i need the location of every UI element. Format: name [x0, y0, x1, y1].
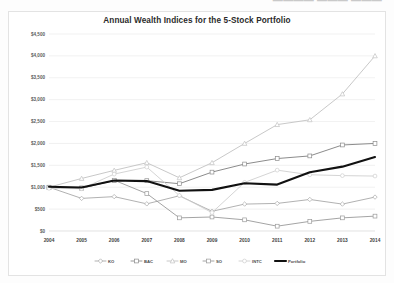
data-point-marker	[308, 197, 312, 201]
legend-label: BAC	[144, 259, 153, 264]
legend-item-mo[interactable]: MO	[167, 259, 187, 264]
data-point-marker	[112, 194, 116, 198]
data-point-marker	[145, 202, 149, 206]
legend-item-portfolio[interactable]: Portfolio	[275, 259, 306, 264]
data-point-marker	[79, 196, 83, 200]
chart-legend: KOBACMOSOINTCPortfolio	[95, 259, 306, 264]
data-point-marker	[341, 216, 345, 220]
data-point-marker	[145, 160, 150, 164]
data-point-marker	[210, 211, 214, 215]
x-tick-label: 2004	[44, 238, 55, 243]
data-point-marker	[145, 192, 149, 196]
x-tick-label: 2006	[109, 238, 120, 243]
data-point-marker	[373, 214, 377, 218]
data-point-marker	[373, 142, 377, 146]
data-point-marker	[308, 219, 312, 223]
data-point-marker	[178, 182, 182, 186]
data-point-marker	[98, 259, 102, 263]
data-point-marker	[210, 160, 215, 164]
legend-item-intc[interactable]: INTC	[239, 259, 262, 264]
legend-item-ko[interactable]: KO	[95, 259, 115, 264]
data-series-group	[47, 54, 378, 228]
data-point-marker	[145, 165, 149, 169]
data-point-marker	[373, 174, 377, 178]
series-so	[47, 178, 377, 228]
y-tick-label: $500	[35, 207, 46, 212]
legend-label: SO	[216, 259, 223, 264]
x-tick-label: 2010	[239, 238, 250, 243]
data-point-marker	[135, 259, 139, 263]
chart-container: Annual Wealth Indices for the 5-Stock Po…	[8, 11, 386, 276]
x-tick-label: 2009	[207, 238, 218, 243]
y-tick-label: $4,000	[31, 53, 45, 58]
y-axis-tick-labels: $0$500$1,000$1,500$2,000$2,500$3,000$3,5…	[31, 32, 45, 234]
x-tick-label: 2005	[76, 238, 87, 243]
data-point-marker	[341, 174, 345, 178]
data-point-marker	[177, 176, 182, 180]
x-tick-label: 2013	[337, 238, 348, 243]
y-tick-label: $0	[40, 229, 46, 234]
data-point-marker	[178, 194, 182, 198]
data-point-marker	[112, 172, 116, 176]
page-root: ———— ——— ——— Annual Wealth Indices for t…	[0, 0, 394, 283]
data-point-marker	[243, 259, 247, 263]
y-tick-label: $1,000	[31, 185, 45, 190]
document-header-strip: ———— ——— ———	[0, 0, 394, 11]
data-point-marker	[275, 157, 279, 161]
data-point-marker	[210, 170, 214, 174]
data-point-marker	[207, 259, 211, 263]
x-tick-label: 2008	[174, 238, 185, 243]
y-tick-label: $3,000	[31, 97, 45, 102]
x-tick-label: 2011	[272, 238, 283, 243]
legend-label: KO	[108, 259, 115, 264]
data-point-marker	[275, 224, 279, 228]
document-header-cut-text: ———— ——— ———	[273, 0, 382, 6]
x-axis-tick-labels: 2004200520062007200820092010201120122013…	[44, 238, 381, 243]
legend-item-so[interactable]: SO	[203, 259, 223, 264]
data-point-marker	[178, 216, 182, 220]
y-tick-label: $4,500	[31, 32, 45, 37]
data-point-marker	[373, 195, 377, 199]
legend-label: Portfolio	[288, 259, 306, 264]
line-chart-plot: $0$500$1,000$1,500$2,000$2,500$3,000$3,5…	[9, 12, 385, 275]
y-tick-label: $1,500	[31, 163, 45, 168]
legend-item-bac[interactable]: BAC	[131, 259, 153, 264]
x-tick-label: 2014	[370, 238, 381, 243]
data-point-marker	[210, 215, 214, 219]
x-tick-label: 2007	[141, 238, 152, 243]
data-point-marker	[341, 143, 345, 147]
data-point-marker	[340, 202, 344, 206]
data-point-marker	[308, 154, 312, 158]
data-point-marker	[242, 202, 246, 206]
y-tick-label: $2,500	[31, 119, 45, 124]
data-point-marker	[243, 162, 247, 166]
x-tick-label: 2012	[304, 238, 315, 243]
data-point-marker	[275, 201, 279, 205]
y-tick-label: $3,500	[31, 75, 45, 80]
legend-label: MO	[180, 259, 187, 264]
data-point-marker	[243, 218, 247, 222]
series-bac	[47, 142, 377, 190]
data-point-marker	[275, 168, 279, 172]
legend-label: INTC	[252, 259, 262, 264]
y-tick-label: $2,000	[31, 141, 45, 146]
